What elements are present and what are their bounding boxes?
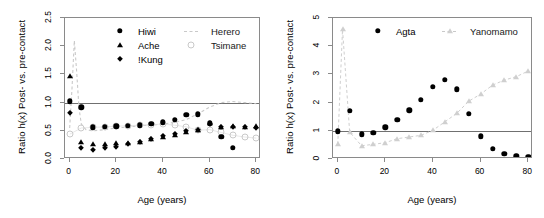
data-point-yanomamo bbox=[382, 140, 388, 145]
chart-panel-right: Ratio h(x) Post- vs. pre-contact Age (ye… bbox=[272, 0, 544, 218]
data-point-tsimane bbox=[253, 135, 260, 142]
data-point-yanomamo bbox=[513, 74, 519, 79]
data-point-yanomamo bbox=[430, 127, 436, 132]
data-point-yanomamo bbox=[525, 68, 531, 73]
data-point-yanomamo bbox=[370, 142, 376, 147]
y-tick-label: 2.5 bbox=[43, 4, 53, 30]
y-tick-label: 4 bbox=[311, 32, 321, 58]
y-tick-mark bbox=[328, 73, 332, 74]
y-tick-label: 3 bbox=[311, 60, 321, 86]
y-tick-mark bbox=[328, 17, 332, 18]
data-point-yanomamo bbox=[501, 77, 507, 82]
y-tick-mark bbox=[60, 130, 64, 131]
data-point-yanomamo bbox=[466, 98, 472, 103]
chart-panel-left: Ratio h(x) Post- vs. pre-contact Age (ye… bbox=[0, 0, 272, 218]
data-point-tsimane bbox=[66, 131, 73, 138]
data-point-tsimane bbox=[241, 134, 248, 141]
y-tick-label: 1.0 bbox=[43, 89, 53, 115]
data-point-yanomamo bbox=[347, 129, 353, 134]
x-tick-label: 40 bbox=[422, 166, 442, 176]
y-tick-mark bbox=[328, 102, 332, 103]
data-point-yanomamo bbox=[442, 119, 448, 124]
x-tick-mark bbox=[115, 158, 116, 162]
data-point-ache bbox=[67, 73, 73, 78]
x-tick-mark bbox=[209, 158, 210, 162]
y-tick-label: 1 bbox=[311, 117, 321, 143]
y-tick-label: 1.5 bbox=[43, 60, 53, 86]
x-tick-mark bbox=[162, 158, 163, 162]
x-tick-mark bbox=[432, 158, 433, 162]
data-point-yanomamo bbox=[478, 91, 484, 96]
x-tick-label: 0 bbox=[327, 166, 347, 176]
y-axis-label-right: Ratio h(x) Post- vs. pre-contact bbox=[284, 20, 295, 154]
plot-area-left bbox=[64, 17, 260, 158]
legend-open-triangle-icon bbox=[447, 28, 453, 33]
figure-root: Ratio h(x) Post- vs. pre-contact Age (ye… bbox=[0, 0, 544, 218]
data-point-yanomamo bbox=[394, 136, 400, 141]
y-tick-label: 2 bbox=[311, 89, 321, 115]
data-point-yanomamo bbox=[335, 142, 341, 147]
y-tick-mark bbox=[60, 17, 64, 18]
y-axis-label-left: Ratio h(x) Post- vs. pre-contact bbox=[16, 20, 27, 154]
y-tick-mark bbox=[328, 158, 332, 159]
y-tick-mark bbox=[60, 158, 64, 159]
x-tick-mark bbox=[384, 158, 385, 162]
data-point-yanomamo bbox=[406, 134, 412, 139]
x-axis-label-left: Age (years) bbox=[62, 194, 262, 205]
y-tick-mark bbox=[60, 102, 64, 103]
legend-label: Tsimane bbox=[211, 40, 246, 51]
y-tick-label: 5 bbox=[311, 4, 321, 30]
y-tick-label: 0.0 bbox=[43, 145, 53, 171]
y-tick-mark bbox=[328, 130, 332, 131]
x-tick-label: 0 bbox=[59, 166, 79, 176]
x-tick-label: 80 bbox=[245, 166, 265, 176]
data-point-yanomamo bbox=[340, 27, 346, 32]
legend-label: Ache bbox=[138, 40, 160, 51]
data-point-yanomamo bbox=[490, 82, 496, 87]
data-point-yanomamo bbox=[359, 143, 365, 148]
data-point-yanomamo bbox=[418, 133, 424, 138]
y-tick-label: 2.0 bbox=[43, 32, 53, 58]
x-axis-label-right: Age (years) bbox=[332, 194, 532, 205]
x-tick-mark bbox=[527, 158, 528, 162]
x-tick-label: 20 bbox=[374, 166, 394, 176]
data-point-ache bbox=[78, 139, 84, 144]
data-point-yanomamo bbox=[454, 111, 460, 116]
y-tick-mark bbox=[60, 45, 64, 46]
legend-label: Agta bbox=[396, 26, 416, 37]
x-tick-label: 60 bbox=[470, 166, 490, 176]
legend-label: Hiwi bbox=[138, 26, 156, 37]
x-tick-label: 80 bbox=[517, 166, 537, 176]
data-point-agta bbox=[514, 153, 519, 158]
y-tick-mark bbox=[60, 73, 64, 74]
y-tick-mark bbox=[328, 45, 332, 46]
data-point-tsimane bbox=[78, 124, 85, 131]
y-tick-label: 0.5 bbox=[43, 117, 53, 143]
legend-label: !Kung bbox=[138, 54, 163, 65]
legend-dashed-line-icon bbox=[184, 31, 198, 32]
x-tick-label: 60 bbox=[199, 166, 219, 176]
y-tick-label: 0 bbox=[311, 145, 321, 171]
plot-area-right bbox=[332, 17, 532, 158]
data-point-tsimane bbox=[171, 122, 178, 129]
x-tick-mark bbox=[337, 158, 338, 162]
x-tick-label: 20 bbox=[105, 166, 125, 176]
legend-marker-icon bbox=[117, 42, 123, 47]
data-point-tsimane bbox=[230, 132, 237, 139]
x-tick-mark bbox=[480, 158, 481, 162]
data-point-ache bbox=[90, 141, 96, 146]
x-tick-mark bbox=[255, 158, 256, 162]
legend-label: Yanomamo bbox=[470, 26, 518, 37]
legend-label: Herero bbox=[211, 26, 240, 37]
x-tick-mark bbox=[69, 158, 70, 162]
legend-marker-icon bbox=[188, 42, 195, 49]
x-tick-label: 40 bbox=[152, 166, 172, 176]
